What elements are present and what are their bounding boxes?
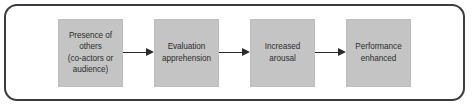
arrow-shaft: [219, 52, 243, 54]
arrow-right-icon: [315, 47, 346, 59]
flow-node-evaluation-apprehension: Evaluation apprehension: [154, 19, 219, 87]
arrow-right-icon: [219, 47, 250, 59]
flow-node-label: Performance enhanced: [347, 41, 410, 64]
arrow-head: [242, 48, 250, 56]
flow-node-presence-of-others: Presence of others (co-actors or audienc…: [58, 19, 123, 87]
arrow-shaft: [123, 52, 147, 54]
flow-node-label: Evaluation apprehension: [155, 41, 218, 64]
arrow-right-icon: [123, 47, 154, 59]
flow-node-label: Presence of others (co-actors or audienc…: [59, 30, 122, 76]
flow-node-label: Increased arousal: [251, 41, 314, 64]
flow-node-performance-enhanced: Performance enhanced: [346, 19, 411, 87]
arrow-head: [146, 48, 154, 56]
flowchart: Presence of others (co-actors or audienc…: [6, 6, 463, 99]
arrow-shaft: [315, 52, 339, 54]
arrow-head: [338, 48, 346, 56]
diagram-frame: Presence of others (co-actors or audienc…: [4, 4, 465, 101]
flow-node-increased-arousal: Increased arousal: [250, 19, 315, 87]
